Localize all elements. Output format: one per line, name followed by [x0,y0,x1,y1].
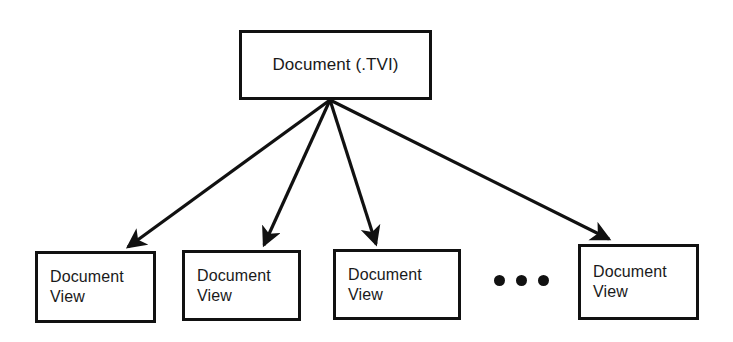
document-view-node-1: Document View [35,251,156,323]
document-node: Document (.TVI) [239,30,432,100]
document-view-node-2-label: Document View [185,266,271,306]
arrow-to-document-view-1 [128,100,330,247]
document-view-node-4: Document View [578,244,699,320]
document-node-label: Document (.TVI) [272,54,398,75]
arrow-to-document-view-3 [330,100,376,244]
ellipsis-dot-2 [516,275,527,286]
arrow-to-document-view-4 [330,100,609,239]
document-view-node-3: Document View [333,249,461,320]
diagram-canvas: Document (.TVI) Document View Document V… [0,0,733,342]
ellipsis-dot-1 [494,275,505,286]
document-view-node-3-label: Document View [336,265,422,305]
ellipsis-dot-3 [538,275,549,286]
document-view-node-2: Document View [182,250,301,321]
document-view-node-4-label: Document View [581,262,667,302]
document-view-node-1-label: Document View [38,267,124,307]
arrow-to-document-view-2 [264,100,330,245]
ellipsis-indicator [494,275,549,286]
